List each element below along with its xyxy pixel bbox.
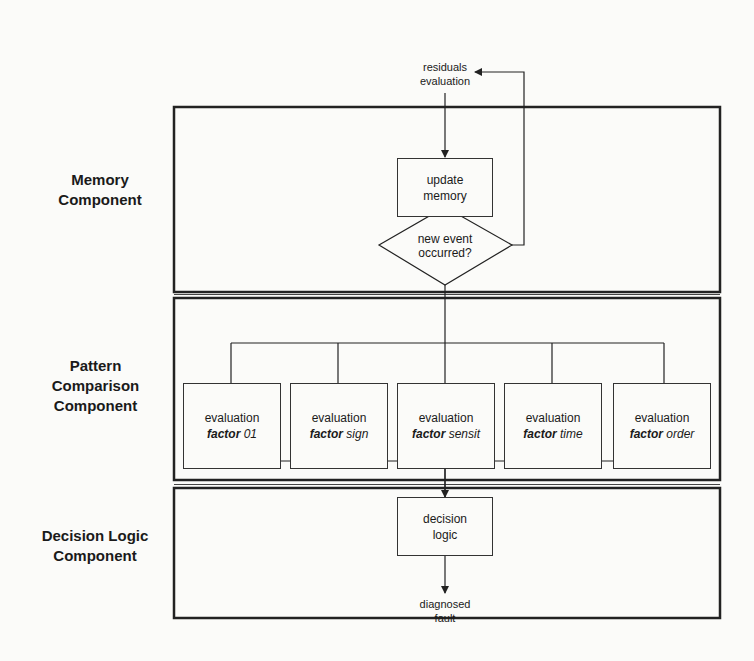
decision-logic-box: decision logic xyxy=(397,497,493,556)
factor-box-01: evaluation factor 01 xyxy=(183,383,281,469)
pattern-component-label: Pattern Comparison Component xyxy=(28,356,163,416)
new-event-label: new event occurred? xyxy=(395,232,495,260)
factor-box-sign: evaluation factor sign xyxy=(290,383,388,469)
memory-component-label: Memory Component xyxy=(40,170,160,210)
input-residuals-evaluation: residuals evaluation xyxy=(395,60,495,88)
factor-box-sensit: evaluation factor sensit xyxy=(397,383,495,469)
factor-box-time: evaluation factor time xyxy=(504,383,602,469)
decision-component-label: Decision Logic Component xyxy=(25,526,165,566)
output-diagnosed-fault: diagnosed fault xyxy=(395,597,495,625)
update-memory-box: update memory xyxy=(397,158,493,217)
factor-box-order: evaluation factor order xyxy=(613,383,711,469)
